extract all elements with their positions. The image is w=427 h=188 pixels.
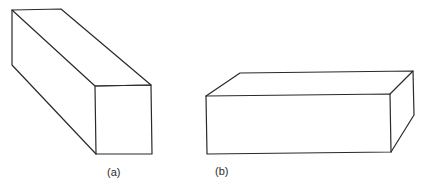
box-b xyxy=(206,71,414,154)
panel-label-b: (b) xyxy=(215,165,228,177)
box-b-front-face xyxy=(206,94,391,154)
box-a-left-face xyxy=(12,10,96,154)
box-a-front-face xyxy=(95,85,152,154)
box-b-top-face xyxy=(206,71,413,96)
box-a xyxy=(12,9,152,154)
box-b-right-face xyxy=(391,71,414,152)
panel-label-a: (a) xyxy=(107,166,120,178)
box-a-top-face xyxy=(12,9,151,86)
diagram-canvas xyxy=(0,0,427,188)
